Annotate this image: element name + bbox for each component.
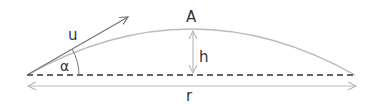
apex-label: A [186, 8, 197, 26]
projectile-diagram: u α A h r [0, 0, 381, 104]
height-label: h [199, 48, 209, 66]
angle-label: α [60, 58, 69, 74]
range-label: r [186, 87, 193, 104]
velocity-label: u [68, 26, 78, 44]
